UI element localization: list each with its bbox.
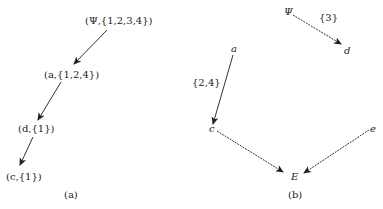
node-d-label: (d,{1}) xyxy=(18,124,54,134)
node-d-label-b: d xyxy=(344,46,350,56)
edge-psi-d-label: {3} xyxy=(319,13,338,23)
node-a-label: (a,{1,2,4}) xyxy=(44,70,99,80)
node-root-label: (Ψ,{1,2,3,4}) xyxy=(85,16,152,26)
edge-d-to-c xyxy=(20,137,33,165)
edge-root-to-a xyxy=(74,30,107,64)
node-a-label-b: a xyxy=(231,44,237,54)
node-c-label: (c,{1}) xyxy=(6,172,42,182)
edge-a-to-d xyxy=(38,82,61,120)
node-e-label: e xyxy=(370,124,376,134)
caption-a: (a) xyxy=(64,190,78,200)
caption-b: (b) xyxy=(288,190,302,200)
node-psi-label: Ψ xyxy=(284,7,293,17)
node-c-label-b: c xyxy=(209,124,215,134)
node-E-label: E xyxy=(291,172,298,182)
edge-a-to-c xyxy=(213,55,233,124)
edge-c-to-E xyxy=(217,131,283,172)
edge-e-to-E xyxy=(304,130,369,173)
diagram-canvas xyxy=(0,0,383,209)
edge-a-c-label: {2,4} xyxy=(192,78,221,88)
